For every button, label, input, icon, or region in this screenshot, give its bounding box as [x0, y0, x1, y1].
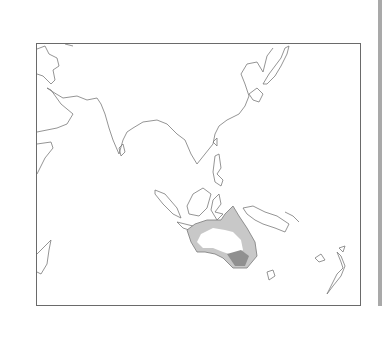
solomons-outline	[285, 212, 299, 222]
sri-lanka-outline	[119, 144, 125, 156]
sulawesi-outline	[211, 194, 223, 220]
japan-outline	[263, 46, 289, 84]
philippines-outline	[213, 154, 223, 186]
borneo-outline	[187, 188, 211, 216]
sumatra-outline	[155, 190, 181, 218]
india-outline	[37, 48, 273, 164]
africa-horn-outline	[37, 142, 53, 174]
new-zealand-outline	[327, 252, 345, 294]
tasmania-outline	[267, 270, 275, 280]
new-guinea-outline	[243, 206, 289, 232]
map-frame	[36, 43, 361, 306]
korea-outline	[249, 88, 263, 102]
madagascar-outline	[37, 240, 51, 274]
new-caledonia-outline	[315, 254, 325, 262]
fiji-outline	[339, 246, 345, 252]
map-canvas	[37, 44, 361, 306]
scrollbar[interactable]	[378, 0, 382, 306]
arabia-outline	[37, 46, 59, 84]
